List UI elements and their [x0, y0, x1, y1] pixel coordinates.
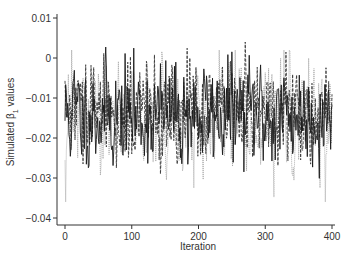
y-tick-label: 0.01 [32, 13, 52, 24]
x-axis-title: Iteration [180, 241, 216, 252]
series-group [65, 42, 332, 202]
y-axis-title: Simulated β1 values [5, 78, 19, 167]
x-tick-label: 300 [257, 231, 274, 242]
y-tick-label: −0.02 [26, 133, 52, 144]
x-tick-label: 400 [324, 231, 341, 242]
y-tick-label: −0.03 [26, 173, 52, 184]
y-tick-label: 0 [45, 53, 51, 64]
x-tick-label: 100 [123, 231, 140, 242]
y-ticks: 0.010−0.01−0.02−0.03−0.04 [26, 13, 57, 224]
trace-plot: 0.010−0.01−0.02−0.03−0.04 0100200300400 … [0, 0, 352, 267]
y-tick-label: −0.04 [26, 213, 52, 224]
x-tick-label: 0 [62, 231, 68, 242]
y-tick-label: −0.01 [26, 93, 52, 104]
x-ticks: 0100200300400 [62, 225, 341, 242]
